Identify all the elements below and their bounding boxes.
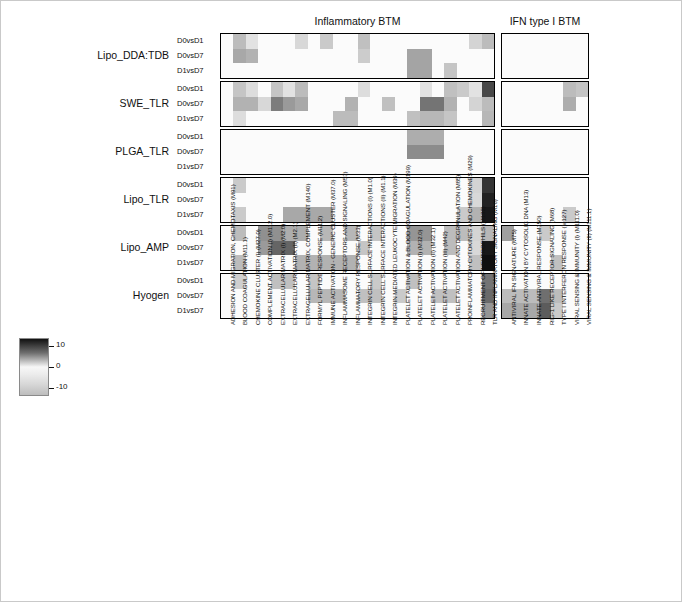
heatmap-cell bbox=[345, 49, 357, 64]
heatmap-cell bbox=[370, 130, 382, 145]
heatmap-cell bbox=[320, 97, 332, 112]
heatmap-cell bbox=[283, 193, 295, 208]
heatmap-cell bbox=[482, 130, 494, 145]
heatmap-cell bbox=[221, 82, 233, 97]
heatmap-cell bbox=[382, 130, 394, 145]
heatmap-cell bbox=[407, 63, 419, 78]
heatmap-cell bbox=[370, 145, 382, 160]
heatmap-cell bbox=[539, 63, 551, 78]
heatmap-cell bbox=[358, 145, 370, 160]
heatmap-cell bbox=[333, 34, 345, 49]
heatmap-cell bbox=[539, 178, 551, 193]
heatmap-cell bbox=[514, 34, 526, 49]
row-group-label: Lipo_AMP bbox=[41, 241, 169, 253]
heatmap-cell bbox=[469, 97, 481, 112]
row-group-label: Lipo_TLR bbox=[41, 193, 169, 205]
heatmap-cell bbox=[420, 145, 432, 160]
heatmap-cell bbox=[295, 34, 307, 49]
heatmap-cell bbox=[527, 111, 539, 126]
heatmap-cell bbox=[271, 34, 283, 49]
heatmap-cell bbox=[420, 159, 432, 174]
heatmap-cell bbox=[407, 145, 419, 160]
heatmap-cell bbox=[457, 49, 469, 64]
heatmap-block-inflammatory-plga-tlr bbox=[220, 129, 495, 175]
heatmap-cell bbox=[576, 82, 588, 97]
colorbar-tick-label: -10 bbox=[56, 382, 68, 391]
heatmap-cell bbox=[482, 63, 494, 78]
heatmap-cell bbox=[551, 63, 563, 78]
heatmap-cell bbox=[514, 97, 526, 112]
heatmap-cell bbox=[370, 49, 382, 64]
heatmap-cell bbox=[246, 207, 258, 222]
heatmap-cell bbox=[469, 111, 481, 126]
heatmap-cell bbox=[539, 193, 551, 208]
column-label-ifn: VIRAL SENSING & IMMUNITY (II) (M111.1) bbox=[585, 209, 592, 325]
heatmap-cell bbox=[395, 145, 407, 160]
heatmap-cell bbox=[258, 111, 270, 126]
row-comparison-label: D0vsD7 bbox=[177, 51, 203, 60]
heatmap-cell bbox=[283, 159, 295, 174]
row-group-label: Lipo_DDA:TDB bbox=[41, 49, 169, 61]
column-label-ifn: VIRAL SENSING & IMMUNITY (I) (M111.0) bbox=[573, 210, 580, 325]
heatmap-cell bbox=[457, 34, 469, 49]
heatmap-cell bbox=[308, 130, 320, 145]
heatmap-cell bbox=[320, 63, 332, 78]
row-comparison-label: D0vsD1 bbox=[177, 180, 203, 189]
heatmap-cell bbox=[420, 178, 432, 193]
heatmap-cell bbox=[308, 145, 320, 160]
heatmap-cell bbox=[233, 130, 245, 145]
heatmap-cell bbox=[432, 159, 444, 174]
column-label-inflammatory: BLOOD COAGULATION (M11.1) bbox=[241, 237, 248, 325]
heatmap-cell bbox=[221, 34, 233, 49]
heatmap-cell bbox=[382, 111, 394, 126]
heatmap-cell bbox=[563, 82, 575, 97]
heatmap-cell bbox=[502, 207, 514, 222]
heatmap-cell bbox=[576, 49, 588, 64]
heatmap-cell bbox=[432, 111, 444, 126]
heatmap-cell bbox=[432, 130, 444, 145]
heatmap-cell bbox=[283, 145, 295, 160]
heatmap-cell bbox=[308, 111, 320, 126]
heatmap-cell bbox=[527, 82, 539, 97]
heatmap-cell bbox=[432, 97, 444, 112]
heatmap-cell bbox=[444, 97, 456, 112]
heatmap-cell bbox=[246, 130, 258, 145]
heatmap-cell bbox=[551, 145, 563, 160]
heatmap-cell bbox=[370, 63, 382, 78]
heatmap-cell bbox=[563, 145, 575, 160]
panel-title-ifn: IFN type I BTM bbox=[501, 15, 589, 27]
heatmap-cell bbox=[221, 49, 233, 64]
heatmap-cell bbox=[527, 97, 539, 112]
heatmap-cell bbox=[358, 34, 370, 49]
heatmap-cell bbox=[527, 159, 539, 174]
heatmap-cell bbox=[333, 130, 345, 145]
heatmap-cell bbox=[432, 145, 444, 160]
colorbar-tick-mark bbox=[49, 346, 54, 347]
panel-title-inflammatory: Inflammatory BTM bbox=[220, 15, 495, 27]
heatmap-cell bbox=[514, 159, 526, 174]
heatmap-cell bbox=[271, 111, 283, 126]
heatmap-cell bbox=[576, 63, 588, 78]
heatmap-cell bbox=[345, 111, 357, 126]
heatmap-cell bbox=[502, 82, 514, 97]
heatmap-cell bbox=[295, 145, 307, 160]
heatmap-cell bbox=[563, 111, 575, 126]
colorbar bbox=[19, 338, 49, 396]
heatmap-cell bbox=[221, 111, 233, 126]
colorbar-tick-label: 10 bbox=[56, 340, 65, 349]
heatmap-cell bbox=[576, 145, 588, 160]
heatmap-cell bbox=[502, 178, 514, 193]
heatmap-cell bbox=[444, 111, 456, 126]
heatmap-cell bbox=[258, 145, 270, 160]
heatmap-cell bbox=[258, 63, 270, 78]
heatmap-cell bbox=[271, 145, 283, 160]
heatmap-cell bbox=[563, 159, 575, 174]
heatmap-cell bbox=[370, 82, 382, 97]
row-comparison-label: D1vsD7 bbox=[177, 258, 203, 267]
heatmap-cell bbox=[271, 97, 283, 112]
heatmap-cell bbox=[527, 34, 539, 49]
heatmap-cell bbox=[444, 82, 456, 97]
heatmap-cell bbox=[320, 130, 332, 145]
heatmap-cell bbox=[551, 130, 563, 145]
heatmap-cell bbox=[271, 49, 283, 64]
